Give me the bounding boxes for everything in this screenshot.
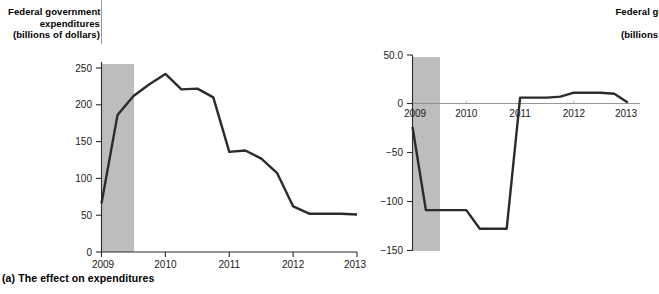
panel-a-caption: (a) The effect on expenditures — [2, 272, 154, 284]
panel-b-y-ticks — [407, 55, 413, 251]
panel-b-ytick-50: 50.0 — [384, 50, 404, 61]
panel-b-ytick-0: 0 — [397, 98, 403, 109]
figure-root: Federal government expenditures (billion… — [0, 0, 659, 294]
panel-b-xtick-2010: 2010 — [455, 108, 478, 119]
panel-b-xtick-2013: 2013 — [615, 108, 638, 119]
panel-b-plot: 50.0 0 −50 −100 −150 2009 2010 2011 2012… — [0, 0, 659, 270]
panel-b-ytick-m150: −150 — [380, 245, 403, 256]
panel-b-y-tick-labels: 50.0 0 −50 −100 −150 — [380, 50, 403, 257]
panel-revenue: Federal government revenue (billions of … — [300, 0, 659, 294]
panel-b-ytick-m100: −100 — [380, 196, 403, 207]
panel-b-xtick-2009: 2009 — [404, 108, 427, 119]
panel-b-ytick-m50: −50 — [386, 147, 403, 158]
panel-b-xtick-2012: 2012 — [563, 108, 586, 119]
panel-b-xtick-2011: 2011 — [509, 108, 531, 119]
